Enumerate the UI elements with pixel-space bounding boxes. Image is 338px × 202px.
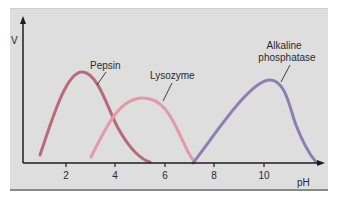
alkaline-phosphatase-label-line1: Alkaline <box>266 40 301 51</box>
alkaline-phosphatase-leader <box>281 65 290 82</box>
y-axis-arrow-icon <box>20 16 26 24</box>
tick-label-2: 2 <box>63 170 69 181</box>
alkaline-phosphatase-label-line2: phosphatase <box>258 52 316 63</box>
tick-label-6: 6 <box>162 170 168 181</box>
tick-label-10: 10 <box>258 170 270 181</box>
tick-label-4: 4 <box>112 170 118 181</box>
alkaline-phosphatase-curve <box>193 80 316 163</box>
lysozyme-curve <box>91 98 195 162</box>
y-axis-label: V <box>11 35 18 46</box>
x-axis-label: pH <box>297 177 310 188</box>
lysozyme-leader <box>163 83 172 101</box>
lysozyme-label: Lysozyme <box>150 70 195 81</box>
enzyme-ph-chart: 2 4 6 8 10 V pH Pepsin Lysozyme Alkaline… <box>0 0 338 202</box>
x-axis-arrow-icon <box>317 160 325 166</box>
pepsin-label: Pepsin <box>90 60 121 71</box>
pepsin-leader <box>97 72 106 85</box>
tick-label-8: 8 <box>211 170 217 181</box>
